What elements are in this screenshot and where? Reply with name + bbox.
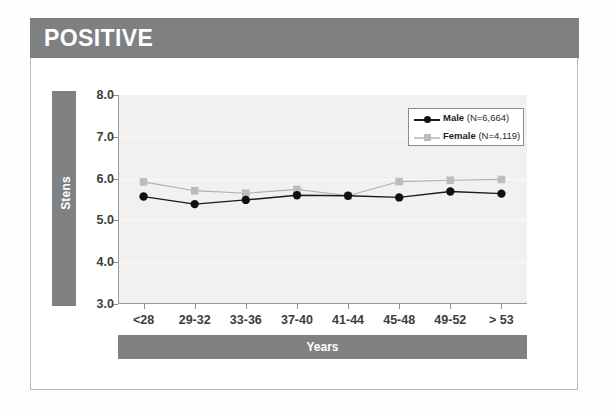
female-data-point [395, 178, 403, 186]
male-data-point [395, 193, 403, 201]
y-tick-label: 7.0 [78, 131, 114, 143]
x-axis-title-bar: Years [118, 335, 527, 359]
female-data-point [191, 187, 199, 195]
female-data-point [498, 176, 506, 184]
legend-item-male: Male (N=6,664) [409, 111, 523, 127]
male-data-point [242, 196, 250, 204]
x-tick-mark [399, 304, 400, 309]
y-tick-label: 3.0 [78, 298, 114, 310]
y-tick-label: 6.0 [78, 173, 114, 185]
chart-area: Stens Years 3.04.05.06.07.08.0 <2829-323… [30, 58, 578, 390]
y-tick-label: 8.0 [78, 89, 114, 101]
male-data-point [446, 187, 454, 195]
x-tick-mark [297, 304, 298, 309]
y-axis-title: Stens [59, 133, 73, 253]
legend-item-female: Female (N=4,119) [409, 129, 523, 145]
y-axis-title-bar: Stens [52, 91, 76, 306]
x-tick-mark [144, 304, 145, 309]
x-tick-label: > 53 [466, 313, 536, 327]
male-data-point [293, 191, 301, 199]
x-tick-mark [501, 304, 502, 309]
legend-label-male: Male (N=6,664) [443, 112, 509, 123]
male-data-point [139, 192, 147, 200]
female-data-point [140, 178, 148, 186]
x-tick-mark [195, 304, 196, 309]
male-data-point [190, 200, 198, 208]
chart-legend: Male (N=6,664) Female (N=4,119) [408, 108, 524, 146]
chart-page: POSITIVE Stens Years 3.04.05.06.07.08.0 … [0, 0, 612, 414]
x-tick-mark [348, 304, 349, 309]
title-bar: POSITIVE [30, 18, 579, 58]
female-marker-icon [414, 133, 440, 142]
male-data-point [497, 189, 505, 197]
y-tick-label: 5.0 [78, 214, 114, 226]
y-tick-label: 4.0 [78, 256, 114, 268]
legend-label-female: Female (N=4,119) [443, 130, 520, 141]
page-title: POSITIVE [44, 25, 153, 51]
x-axis-title: Years [118, 340, 527, 354]
plot-region: 3.04.05.06.07.08.0 <2829-3233-3637-4041-… [118, 95, 527, 304]
x-tick-mark [246, 304, 247, 309]
x-tick-mark [450, 304, 451, 309]
male-data-point [344, 192, 352, 200]
male-marker-icon [414, 115, 440, 124]
female-data-point [447, 176, 455, 184]
